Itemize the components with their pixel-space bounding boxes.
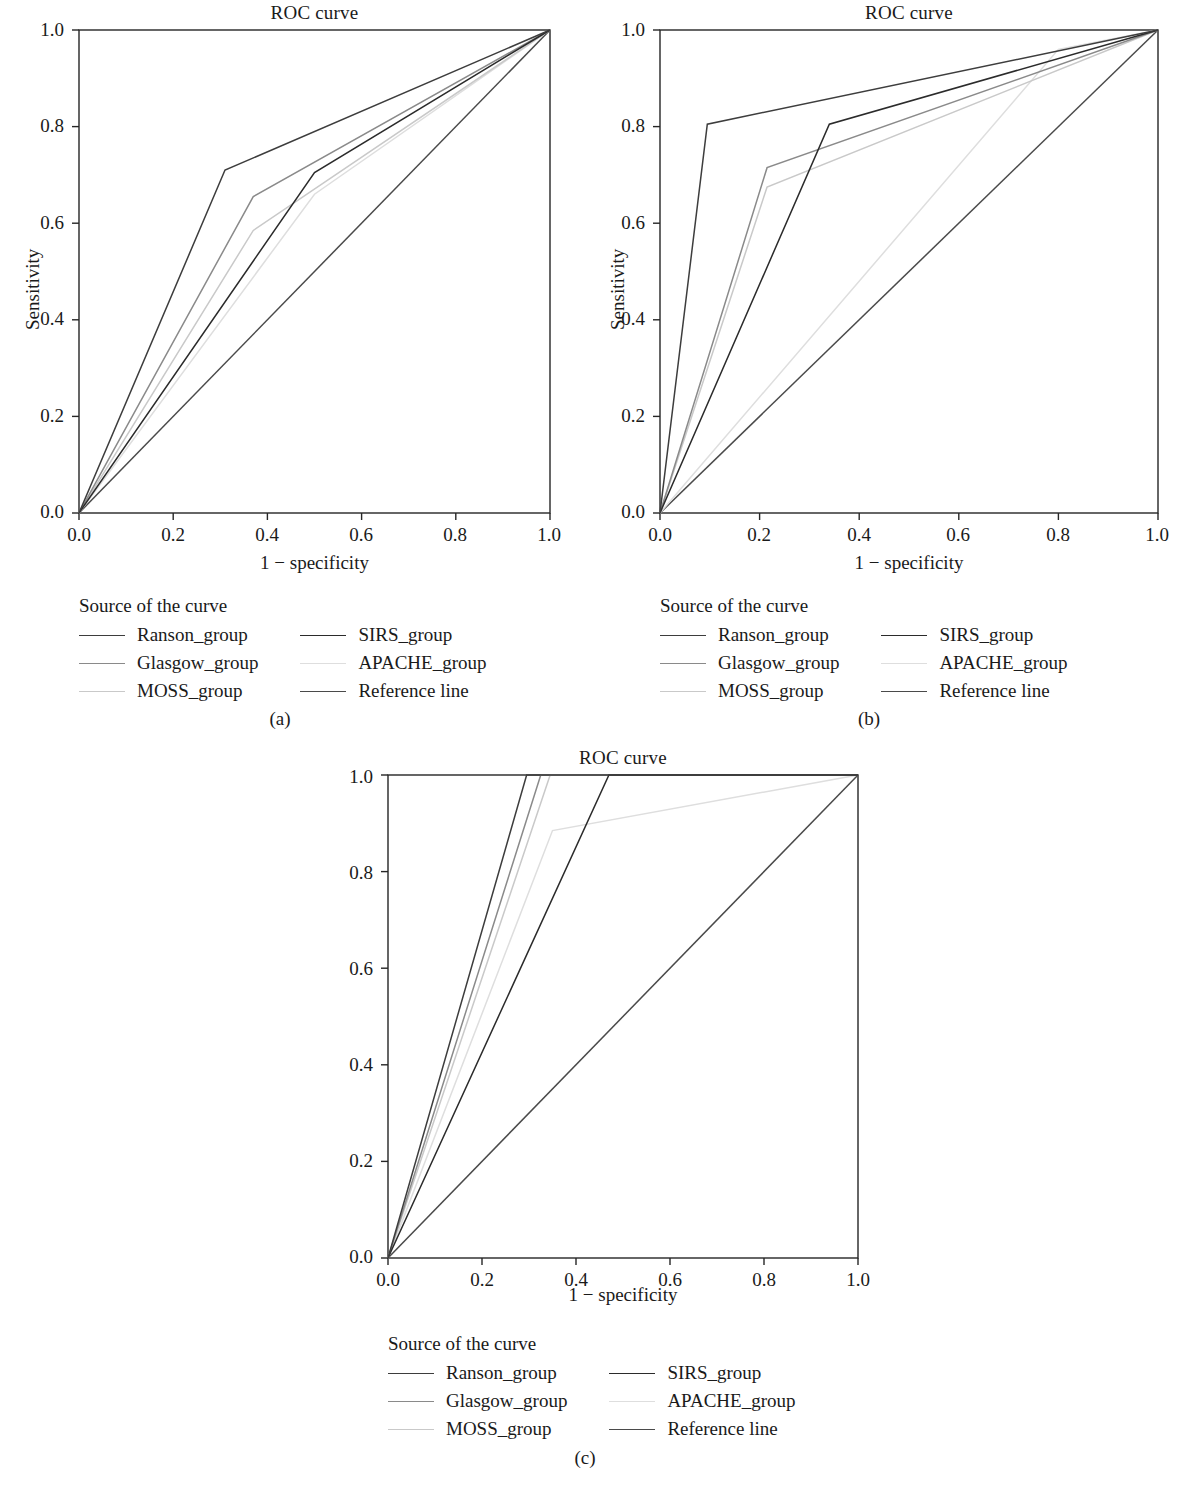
legend-line-swatch: [79, 691, 125, 692]
legend-item-glasgow-group[interactable]: Glasgow_group: [660, 649, 839, 677]
legend-line-swatch: [660, 691, 706, 692]
panel-a-plot: [64, 20, 584, 540]
panel-a-ytick-0.0: 0.0: [14, 501, 64, 523]
panel-b-x-axis-label: 1 − specificity: [660, 552, 1158, 574]
panel-b-legend: Source of the curve Ranson_groupGlasgow_…: [660, 595, 1067, 705]
panel-a-legend: Source of the curve Ranson_groupGlasgow_…: [79, 595, 486, 705]
legend-item-label: MOSS_group: [446, 1418, 552, 1440]
roc-panel-b: ROC curve Sensitivity 1 − specificity 1.…: [589, 0, 1179, 745]
panel-c-legend: Source of the curve Ranson_groupGlasgow_…: [388, 1333, 795, 1443]
panel-b-caption: (b): [829, 708, 909, 730]
legend-line-swatch: [660, 635, 706, 636]
legend-line-swatch: [79, 635, 125, 636]
legend-column-left: Ranson_groupGlasgow_groupMOSS_group: [660, 621, 839, 705]
legend-item-apache-group[interactable]: APACHE_group: [300, 649, 486, 677]
panel-a-caption: (a): [240, 708, 320, 730]
roc-panel-c: ROC curve Sensitivity 1 − specificity 1.…: [295, 745, 885, 1485]
panel-b-ytick-0.4: 0.4: [595, 308, 645, 330]
panel-b-ytick-0.0: 0.0: [595, 501, 645, 523]
legend-item-sirs-group[interactable]: SIRS_group: [881, 621, 1067, 649]
panel-a-ytick-0.2: 0.2: [14, 405, 64, 427]
legend-item-sirs-group[interactable]: SIRS_group: [300, 621, 486, 649]
legend-item-glasgow-group[interactable]: Glasgow_group: [79, 649, 258, 677]
panel-a-ytick-0.6: 0.6: [14, 212, 64, 234]
legend-column-right: SIRS_groupAPACHE_groupReference line: [609, 1359, 795, 1443]
legend-item-label: Reference line: [358, 680, 468, 702]
panel-c-legend-title: Source of the curve: [388, 1333, 795, 1355]
legend-item-label: Ranson_group: [718, 624, 829, 646]
legend-column-left: Ranson_groupGlasgow_groupMOSS_group: [388, 1359, 567, 1443]
legend-line-swatch: [388, 1401, 434, 1402]
panel-a-ytick-0.4: 0.4: [14, 308, 64, 330]
legend-item-label: SIRS_group: [939, 624, 1033, 646]
legend-item-reference-line[interactable]: Reference line: [609, 1415, 795, 1443]
roc-curve-reference-line: [388, 775, 858, 1258]
legend-item-label: APACHE_group: [667, 1390, 795, 1412]
legend-line-swatch: [660, 663, 706, 664]
legend-item-reference-line[interactable]: Reference line: [300, 677, 486, 705]
legend-line-swatch: [881, 691, 927, 692]
panel-a-ytick-0.8: 0.8: [14, 115, 64, 137]
legend-item-label: SIRS_group: [667, 1362, 761, 1384]
legend-line-swatch: [300, 663, 346, 664]
panel-b-legend-title: Source of the curve: [660, 595, 1067, 617]
panel-c-ytick-0.6: 0.6: [323, 958, 373, 980]
legend-item-label: Reference line: [939, 680, 1049, 702]
legend-item-apache-group[interactable]: APACHE_group: [609, 1387, 795, 1415]
legend-item-sirs-group[interactable]: SIRS_group: [609, 1359, 795, 1387]
legend-item-apache-group[interactable]: APACHE_group: [881, 649, 1067, 677]
legend-column-right: SIRS_groupAPACHE_groupReference line: [300, 621, 486, 705]
panel-b-ytick-1.0: 1.0: [595, 19, 645, 41]
legend-item-label: MOSS_group: [718, 680, 824, 702]
legend-item-label: Glasgow_group: [137, 652, 258, 674]
panel-c-ytick-0.4: 0.4: [323, 1054, 373, 1076]
panel-a-legend-title: Source of the curve: [79, 595, 486, 617]
legend-item-label: APACHE_group: [939, 652, 1067, 674]
legend-item-glasgow-group[interactable]: Glasgow_group: [388, 1387, 567, 1415]
legend-column-left: Ranson_groupGlasgow_groupMOSS_group: [79, 621, 258, 705]
legend-item-ranson-group[interactable]: Ranson_group: [79, 621, 258, 649]
legend-line-swatch: [388, 1429, 434, 1430]
legend-line-swatch: [609, 1401, 655, 1402]
legend-column-right: SIRS_groupAPACHE_groupReference line: [881, 621, 1067, 705]
legend-item-reference-line[interactable]: Reference line: [881, 677, 1067, 705]
legend-item-ranson-group[interactable]: Ranson_group: [660, 621, 839, 649]
legend-item-label: SIRS_group: [358, 624, 452, 646]
roc-panel-a: ROC curve Sensitivity 1 − specificity 1.…: [0, 0, 590, 745]
legend-item-ranson-group[interactable]: Ranson_group: [388, 1359, 567, 1387]
legend-line-swatch: [300, 635, 346, 636]
legend-item-label: Glasgow_group: [446, 1390, 567, 1412]
legend-item-label: Reference line: [667, 1418, 777, 1440]
legend-line-swatch: [79, 663, 125, 664]
legend-item-moss-group[interactable]: MOSS_group: [79, 677, 258, 705]
panel-a-x-axis-label: 1 − specificity: [79, 552, 550, 574]
panel-c-ytick-0.2: 0.2: [323, 1150, 373, 1172]
panel-b-plot: [645, 20, 1179, 540]
panel-b-ytick-0.6: 0.6: [595, 212, 645, 234]
legend-item-label: Glasgow_group: [718, 652, 839, 674]
panel-c-plot: [373, 766, 893, 1286]
legend-item-moss-group[interactable]: MOSS_group: [660, 677, 839, 705]
legend-line-swatch: [881, 635, 927, 636]
panel-a-ytick-1.0: 1.0: [14, 19, 64, 41]
legend-line-swatch: [300, 691, 346, 692]
panel-c-ytick-0.0: 0.0: [323, 1246, 373, 1268]
legend-item-label: APACHE_group: [358, 652, 486, 674]
panel-c-ytick-0.8: 0.8: [323, 862, 373, 884]
panel-b-ytick-0.8: 0.8: [595, 115, 645, 137]
legend-item-label: MOSS_group: [137, 680, 243, 702]
legend-line-swatch: [609, 1429, 655, 1430]
panel-c-caption: (c): [545, 1447, 625, 1469]
legend-item-label: Ranson_group: [446, 1362, 557, 1384]
legend-line-swatch: [609, 1373, 655, 1374]
panel-b-ytick-0.2: 0.2: [595, 405, 645, 427]
legend-item-label: Ranson_group: [137, 624, 248, 646]
roc-curve-reference-line: [79, 30, 550, 513]
legend-line-swatch: [881, 663, 927, 664]
legend-line-swatch: [388, 1373, 434, 1374]
panel-c-ytick-1.0: 1.0: [323, 766, 373, 788]
legend-item-moss-group[interactable]: MOSS_group: [388, 1415, 567, 1443]
